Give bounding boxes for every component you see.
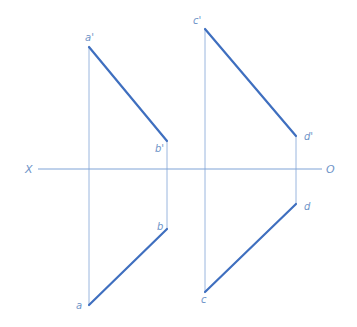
point-label-d: d bbox=[304, 201, 311, 212]
point-label-b-prime: b' bbox=[155, 143, 164, 154]
axis-label-o: O bbox=[326, 163, 335, 176]
segment-a-prime-b-prime bbox=[89, 47, 167, 141]
point-label-a: a bbox=[76, 300, 82, 311]
segment-c-prime-d-prime bbox=[205, 29, 296, 136]
segment-c-d bbox=[205, 204, 296, 292]
projection-diagram: X O a' b' b a c' d' d c bbox=[0, 0, 357, 327]
segment-a-b bbox=[89, 229, 167, 305]
point-label-c-prime: c' bbox=[193, 15, 201, 26]
point-label-d-prime: d' bbox=[304, 131, 313, 142]
point-label-c: c bbox=[201, 294, 207, 305]
point-label-b: b bbox=[157, 221, 163, 232]
axis-label-x: X bbox=[24, 163, 33, 176]
point-label-a-prime: a' bbox=[85, 32, 94, 43]
